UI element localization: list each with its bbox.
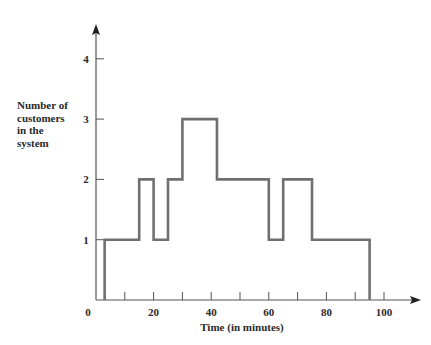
y-tick-label: 4	[83, 53, 89, 65]
x-tick-label: 20	[148, 306, 160, 318]
x-tick-label: 80	[321, 306, 333, 318]
y-tick-label: 3	[83, 113, 89, 125]
data-series	[105, 119, 370, 300]
step-line	[105, 119, 370, 300]
x-axis-label: Time (in minutes)	[200, 321, 284, 334]
x-tick-label: 40	[206, 306, 218, 318]
x-tick-label: 100	[376, 306, 393, 318]
y-tick-label: 1	[83, 234, 89, 246]
x-tick-label: 0	[85, 306, 91, 318]
axes	[92, 24, 421, 304]
step-chart: 0204060801001234 Time (in minutes)	[0, 0, 431, 345]
y-tick-label: 2	[83, 173, 89, 185]
x-tick-label: 60	[263, 306, 275, 318]
axis-ticks: 0204060801001234	[83, 53, 393, 318]
